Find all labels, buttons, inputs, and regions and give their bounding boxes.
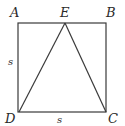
label-point-d: D xyxy=(4,111,16,126)
segment-ed xyxy=(19,23,65,112)
label-point-b: B xyxy=(105,5,116,20)
label-side-bottom: s xyxy=(57,114,62,125)
label-side-left: s xyxy=(8,56,13,67)
square-abcd xyxy=(18,23,106,112)
label-point-c: C xyxy=(108,111,118,126)
geometry-diagram: A E B D C s s xyxy=(0,0,125,126)
label-point-a: A xyxy=(9,5,19,20)
segment-ec xyxy=(65,23,106,112)
label-point-e: E xyxy=(59,5,70,20)
